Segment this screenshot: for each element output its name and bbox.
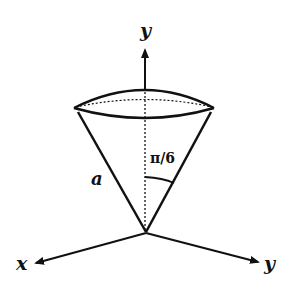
label-vertical-axis: y [139, 19, 153, 41]
base-axes [36, 233, 258, 263]
label-angle: π/6 [150, 150, 175, 166]
label-y-axis: y [263, 252, 277, 274]
label-slant: a [91, 168, 103, 189]
label-x-axis: x [15, 252, 28, 274]
cone-diagram: y x y a π/6 [0, 0, 293, 289]
cone-rim [74, 90, 214, 118]
angle-arc [145, 177, 174, 183]
